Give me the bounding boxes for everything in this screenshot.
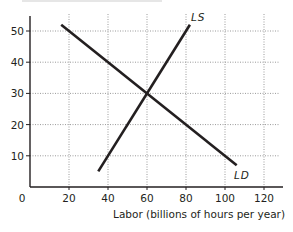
chart-canvas: 204060801001201020304050 LS LD 0 Labor (… xyxy=(0,0,293,232)
labor-market-chart: 204060801001201020304050 LS LD 0 Labor (… xyxy=(0,0,293,232)
curve-ld xyxy=(61,25,237,165)
y-tick-label-20: 20 xyxy=(11,119,24,131)
x-axis-title: Labor (billions of hours per year) xyxy=(113,208,285,220)
x-tick-label-40: 40 xyxy=(101,192,114,204)
x-tick-label-80: 80 xyxy=(179,192,192,204)
curve-ls xyxy=(98,25,190,172)
y-tick-label-30: 30 xyxy=(11,87,24,99)
x-tick-label-60: 60 xyxy=(140,192,153,204)
x-tick-label-120: 120 xyxy=(254,192,274,204)
y-tick-label-50: 50 xyxy=(11,25,24,37)
series-lines xyxy=(61,25,237,172)
axes xyxy=(26,16,283,190)
cropped-top-text xyxy=(22,0,162,2)
ls-curve-label: LS xyxy=(191,11,206,23)
ld-curve-label: LD xyxy=(234,169,250,181)
x-tick-label-20: 20 xyxy=(62,192,75,204)
y-tick-label-40: 40 xyxy=(11,56,24,68)
x-tick-label-100: 100 xyxy=(215,192,235,204)
origin-label: 0 xyxy=(19,192,26,204)
y-tick-label-10: 10 xyxy=(11,150,24,162)
